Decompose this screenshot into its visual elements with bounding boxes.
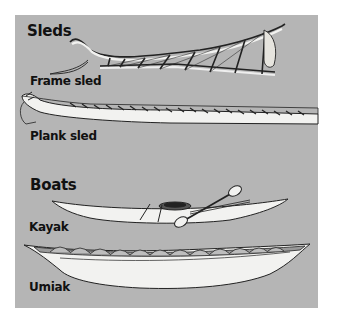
frame-sled-illustration (50, 24, 285, 75)
section-heading-boats: Boats (30, 176, 76, 194)
kayak-illustration (52, 184, 288, 230)
label-plank-sled: Plank sled (30, 129, 97, 143)
section-heading-sleds: Sleds (27, 22, 71, 40)
label-frame-sled: Frame sled (30, 74, 101, 88)
label-umiak: Umiak (29, 280, 70, 294)
plank-sled-illustration (20, 92, 318, 124)
vehicles-illustration (0, 0, 340, 324)
label-kayak: Kayak (29, 220, 68, 234)
